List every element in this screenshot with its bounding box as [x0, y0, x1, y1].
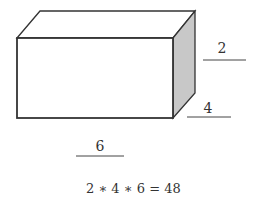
prism-front-face [17, 38, 173, 118]
height-label: 2 [212, 41, 232, 55]
width-label: 6 [90, 139, 110, 153]
depth-label: 4 [198, 101, 218, 115]
volume-equation: 2 ∗ 4 ∗ 6 = 48 [86, 182, 181, 195]
prism-top-face [17, 11, 195, 38]
